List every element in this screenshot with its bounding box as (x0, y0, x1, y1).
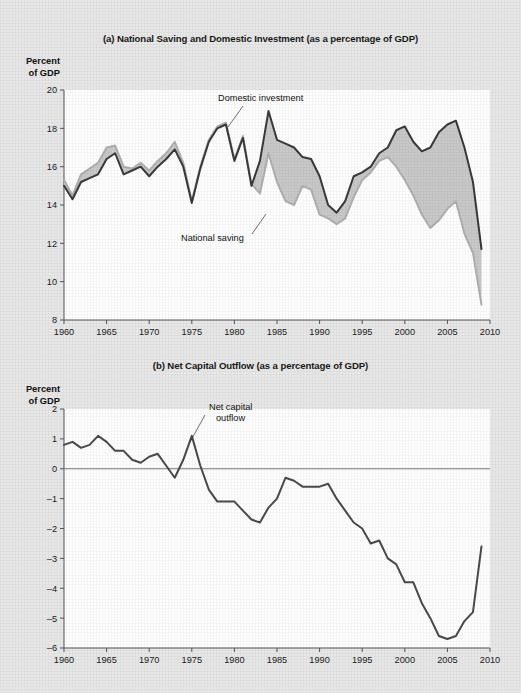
y-tick-label: –1 (47, 494, 57, 504)
x-tick-label: 1970 (139, 655, 159, 665)
x-tick-label: 2005 (437, 327, 457, 337)
x-tick-label: 1960 (54, 327, 74, 337)
x-tick-label: 1975 (182, 655, 202, 665)
y-tick-label: 1 (52, 434, 57, 444)
x-tick-label: 1985 (267, 655, 287, 665)
x-tick-label: 1995 (352, 327, 372, 337)
y-tick-label: –2 (47, 524, 57, 534)
panel-b-plot: –6–5–4–3–2–10121960196519701975198019851… (0, 375, 521, 675)
x-tick-label: 1980 (224, 327, 244, 337)
x-tick-label: 2010 (480, 655, 500, 665)
y-tick-label: 20 (47, 85, 57, 95)
x-tick-label: 1960 (54, 655, 74, 665)
x-tick-label: 1965 (96, 327, 116, 337)
x-tick-label: 2000 (395, 655, 415, 665)
y-tick-label: –3 (47, 554, 57, 564)
y-tick-label: –6 (47, 643, 57, 653)
x-tick-label: 1990 (309, 655, 329, 665)
y-tick-label: 0 (52, 464, 57, 474)
annotation-domestic-investment: Domestic investment (218, 93, 304, 103)
y-tick-label: 18 (47, 124, 57, 134)
x-tick-label: 2000 (395, 327, 415, 337)
x-tick-label: 1965 (96, 655, 116, 665)
y-tick-label: –5 (47, 614, 57, 624)
x-tick-label: 2005 (437, 655, 457, 665)
y-tick-label: 8 (52, 315, 57, 325)
annotation-national-saving: National saving (181, 233, 244, 243)
x-tick-label: 1990 (309, 327, 329, 337)
annotation-net-capital-outflow-line2: outflow (216, 413, 245, 423)
panel-a-plot: 8101214161820196019651970197519801985199… (0, 48, 521, 348)
y-tick-label: 12 (47, 239, 57, 249)
y-tick-label: 10 (47, 277, 57, 287)
x-tick-label: 1980 (224, 655, 244, 665)
y-tick-label: –4 (47, 584, 57, 594)
panel-b-title: (b) Net Capital Outflow (as a percentage… (0, 360, 521, 371)
x-tick-label: 1975 (182, 327, 202, 337)
x-tick-label: 1985 (267, 327, 287, 337)
y-tick-label: 14 (47, 200, 57, 210)
x-tick-label: 2010 (480, 327, 500, 337)
panel-a-title: (a) National Saving and Domestic Investm… (0, 33, 521, 44)
annotation-net-capital-outflow-line1: Net capital (209, 402, 252, 412)
figure-container: (a) National Saving and Domestic Investm… (0, 0, 521, 693)
x-tick-label: 1970 (139, 327, 159, 337)
y-tick-label: 16 (47, 162, 57, 172)
x-tick-label: 1995 (352, 655, 372, 665)
y-tick-label: 2 (52, 404, 57, 414)
